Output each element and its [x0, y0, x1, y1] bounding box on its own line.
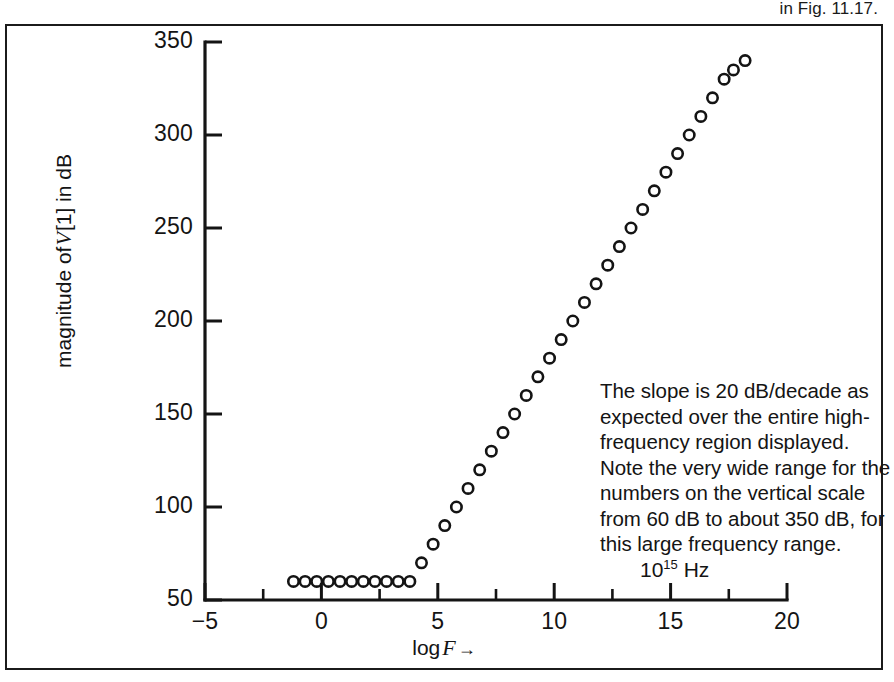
annotation-line: frequency region displayed.	[600, 429, 894, 455]
y-tick-label: 200	[121, 306, 193, 333]
figure-caption: in Fig. 11.17.	[780, 0, 878, 19]
y-tick-label: 150	[121, 399, 193, 426]
annotation-line: expected over the entire high-	[600, 404, 894, 430]
y-axis-title: magnitude ofV[1] in dB	[51, 121, 77, 401]
annotation-line: from 60 dB to about 350 dB, for	[600, 506, 894, 532]
y-axis-title-prefix: magnitude of	[52, 247, 75, 368]
x-tick-label: 10	[519, 608, 589, 635]
x-axis-title-prefix: log	[412, 636, 440, 659]
unit-exponent: 15	[663, 557, 677, 572]
x-tick-label: 15	[636, 608, 706, 635]
annotation-note: The slope is 20 dB/decade asexpected ove…	[600, 378, 894, 557]
x-axis-title: logF→	[0, 635, 888, 661]
x-tick-label: 20	[752, 608, 822, 635]
y-axis-symbol: V	[51, 231, 76, 246]
frequency-unit-label: 1015 Hz	[640, 558, 709, 582]
annotation-line: numbers on the vertical scale	[600, 480, 894, 506]
unit-base: 10	[640, 558, 663, 581]
annotation-line: Note the very wide range for the	[600, 455, 894, 481]
y-tick-label: 300	[121, 120, 193, 147]
annotation-line: this large frequency range.	[600, 531, 894, 557]
x-tick-label: 0	[286, 608, 356, 635]
x-tick-label: −5	[170, 608, 240, 635]
y-axis-title-suffix: [1] in dB	[52, 154, 75, 231]
x-axis-symbol: F	[440, 635, 457, 660]
annotation-line: The slope is 20 dB/decade as	[600, 378, 894, 404]
x-tick-label: 5	[403, 608, 473, 635]
y-tick-label: 350	[121, 27, 193, 54]
y-tick-label: 250	[121, 213, 193, 240]
x-axis-arrow-icon: →	[458, 639, 476, 659]
unit-symbol: Hz	[684, 558, 710, 581]
y-tick-label: 100	[121, 492, 193, 519]
